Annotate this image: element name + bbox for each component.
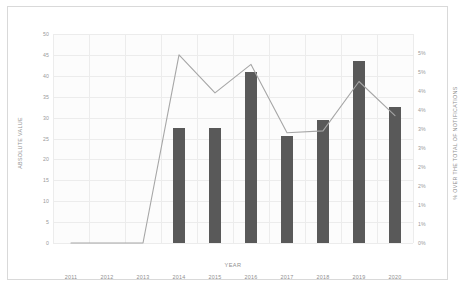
y-axis-right-tick-label: 1% bbox=[418, 221, 426, 227]
x-axis-tick-label: 2017 bbox=[281, 274, 294, 280]
y-axis-right-tick-label: 4% bbox=[418, 107, 426, 113]
y-axis-title-right: % OVER THE TOTAL OF NOTIFICATIONS bbox=[452, 86, 458, 199]
x-axis-tick-label: 2012 bbox=[101, 274, 114, 280]
x-axis-tick-label: 2018 bbox=[317, 274, 330, 280]
x-axis-tick-label: 2015 bbox=[209, 274, 222, 280]
y-axis-left-tick-label: 5 bbox=[46, 219, 49, 225]
x-axis-tick-label: 2016 bbox=[245, 274, 258, 280]
y-axis-right-tick-label: 2% bbox=[418, 164, 426, 170]
y-axis-right-tick-label: 2% bbox=[418, 183, 426, 189]
y-axis-right-tick-label: 5% bbox=[418, 50, 426, 56]
y-axis-right-tick-label: 5% bbox=[418, 69, 426, 75]
y-axis-title-left: ABSOLUTE VALUE bbox=[17, 117, 23, 169]
x-axis-tick-label: 2019 bbox=[353, 274, 366, 280]
plot-area: 05101520253035404550 0%1%1%2%2%3%3%4%4%5… bbox=[53, 34, 413, 243]
x-axis-tick-label: 2014 bbox=[173, 274, 186, 280]
line-series bbox=[53, 34, 413, 243]
y-axis-left-tick-label: 50 bbox=[43, 31, 49, 37]
y-axis-left-tick-label: 20 bbox=[43, 156, 49, 162]
y-axis-right-tick-label: 4% bbox=[418, 88, 426, 94]
y-axis-left-tick-label: 25 bbox=[43, 136, 49, 142]
x-axis-tick-label: 2020 bbox=[389, 274, 402, 280]
gridline-vertical bbox=[413, 34, 414, 243]
x-axis-title: YEAR bbox=[224, 262, 241, 268]
y-axis-left-tick-label: 35 bbox=[43, 94, 49, 100]
y-axis-left-tick-label: 30 bbox=[43, 115, 49, 121]
y-axis-right-tick-label: 0% bbox=[418, 240, 426, 246]
y-axis-right-tick-label: 3% bbox=[418, 145, 426, 151]
y-axis-right-tick-label: 3% bbox=[418, 126, 426, 132]
y-axis-left-tick-label: 0 bbox=[46, 240, 49, 246]
y-axis-left-tick-label: 15 bbox=[43, 177, 49, 183]
chart-container: ABSOLUTE VALUE % OVER THE TOTAL OF NOTIF… bbox=[7, 6, 448, 280]
x-axis-tick-label: 2013 bbox=[137, 274, 150, 280]
y-axis-left-tick-label: 45 bbox=[43, 52, 49, 58]
x-axis-tick-label: 2011 bbox=[65, 274, 77, 280]
y-axis-left-tick-label: 10 bbox=[43, 198, 49, 204]
y-axis-right-tick-label: 1% bbox=[418, 202, 426, 208]
y-axis-left-tick-label: 40 bbox=[43, 73, 49, 79]
